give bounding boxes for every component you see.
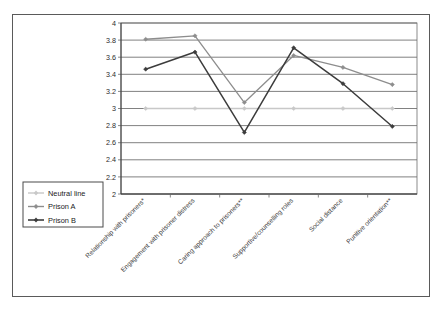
data-point-marker [144,37,148,41]
y-axis-tick-label: 2.2 [106,173,116,182]
x-axis-category-label: Social distance [307,197,344,234]
series-group [144,34,395,135]
y-axis-tick-label: 2 [112,190,116,199]
y-axis-tick-label: 2.6 [106,138,116,147]
series-2 [144,34,395,105]
data-point-marker [390,82,394,86]
line-chart: 43.83.63.43.232.82.62.42.22Relationship … [13,15,431,298]
y-axis-tick-label: 2.8 [106,121,116,130]
chart-svg: 43.83.63.43.232.82.62.42.22Relationship … [13,15,431,298]
data-point-marker [292,106,296,110]
series-1 [144,106,395,110]
y-axis-tick-label: 3 [112,104,116,113]
legend-label: Prison B [48,216,76,225]
data-point-marker [242,106,246,110]
y-axis-tick-label: 3.2 [106,87,116,96]
y-axis-tick-label: 2.4 [106,155,116,164]
data-point-marker [144,67,148,71]
legend-label: Prison A [48,202,76,211]
data-point-marker [390,106,394,110]
y-axis-tick-label: 4 [112,19,116,28]
chart-frame: 43.83.63.43.232.82.62.42.22Relationship … [12,14,430,297]
legend: Neutral linePrison APrison B [23,182,103,227]
category-labels: Relationship with prisoners*Engagement w… [84,196,393,274]
x-axis-category-label: Punitive orientation** [345,196,394,245]
y-axis-tick-label: 3.6 [106,53,116,62]
data-point-marker [341,106,345,110]
series-line [146,36,393,103]
series-3 [144,46,395,135]
data-point-marker [144,106,148,110]
legend-label: Neutral line [48,189,85,198]
y-axis-tick-label: 3.8 [106,36,116,45]
y-axis-tick-label: 3.4 [106,70,116,79]
series-line [146,48,393,133]
data-point-marker [341,65,345,69]
data-point-marker [193,106,197,110]
